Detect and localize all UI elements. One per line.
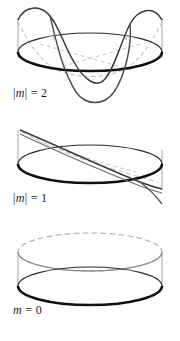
mode-2-diagram <box>0 0 180 120</box>
mode-label-1-symbol: m <box>16 191 25 205</box>
wave-hidden-back-arc <box>18 22 162 77</box>
wave-ring-front <box>18 252 162 271</box>
mode-label-2: |m| = 2 <box>13 86 47 101</box>
mode-0-diagram <box>0 222 180 341</box>
mode-label-2-suffix: | = 2 <box>25 86 48 100</box>
mode-label-0-symbol: m <box>13 303 22 317</box>
mode-label-1: |m| = 1 <box>13 191 47 206</box>
wave-curve-front-trough <box>50 16 130 103</box>
mode-label-0-suffix: = 0 <box>22 303 42 317</box>
mode-label-0: m = 0 <box>13 303 42 318</box>
panel-mode-2 <box>0 0 180 120</box>
panel-mode-0 <box>0 222 180 341</box>
figure-root: |m| = 2 |m| = 1 m = 0 <box>0 0 180 341</box>
rim-ellipse-front <box>18 164 162 183</box>
mode-label-2-symbol: m <box>16 86 25 100</box>
hidden-chord-a <box>40 44 132 70</box>
rim-ellipse-front <box>18 52 162 71</box>
mode-label-1-suffix: | = 1 <box>25 191 48 205</box>
wave-curve-main <box>20 130 162 189</box>
